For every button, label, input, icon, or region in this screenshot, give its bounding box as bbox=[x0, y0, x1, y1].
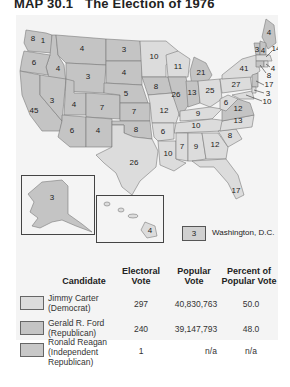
island-maui bbox=[128, 214, 138, 218]
island-kauai bbox=[104, 202, 110, 206]
electoral-vote: 1 bbox=[128, 346, 154, 356]
island-oahu bbox=[118, 208, 124, 212]
electoral-vote: 297 bbox=[128, 299, 154, 309]
percent-vote: 50.0 bbox=[236, 299, 266, 309]
label-hi: 4 bbox=[148, 226, 153, 235]
label-vt: 3 bbox=[255, 45, 260, 54]
label-wa-extra: 1 bbox=[41, 36, 46, 45]
label-al: 9 bbox=[194, 142, 199, 151]
label-ct: 8 bbox=[267, 71, 272, 80]
label-oh: 25 bbox=[206, 86, 215, 95]
label-pa: 27 bbox=[232, 80, 241, 89]
label-nc: 13 bbox=[234, 116, 243, 125]
hawaii-inset: 4 bbox=[96, 195, 164, 243]
map-title: MAP 30.1 The Election of 1976 bbox=[14, 0, 215, 11]
label-id: 4 bbox=[56, 64, 61, 73]
dc-label: Washington, D.C. bbox=[212, 228, 274, 237]
label-ma: 14 bbox=[272, 44, 278, 53]
label-nm: 4 bbox=[96, 126, 101, 135]
label-tn: 10 bbox=[192, 121, 201, 130]
label-ut: 4 bbox=[72, 100, 77, 109]
label-ok: 8 bbox=[134, 125, 139, 134]
alaska-inset: 3 bbox=[21, 175, 95, 235]
header-electoral: Electoral Vote bbox=[118, 266, 164, 286]
label-ia: 8 bbox=[154, 82, 159, 91]
label-md: 10 bbox=[263, 97, 272, 106]
candidate-name: Ronald Reagan (Independent Republican) bbox=[48, 337, 107, 367]
label-il: 26 bbox=[172, 90, 181, 99]
state-connecticut bbox=[256, 61, 264, 67]
label-wa: 8 bbox=[31, 34, 36, 43]
alaska-map: 3 bbox=[22, 176, 94, 234]
carter-swatch bbox=[20, 296, 44, 310]
label-me: 4 bbox=[267, 28, 272, 37]
label-ca: 45 bbox=[30, 106, 39, 115]
label-ar: 6 bbox=[161, 127, 166, 136]
label-ny: 41 bbox=[240, 64, 249, 73]
label-nj: 17 bbox=[265, 80, 274, 89]
label-in: 13 bbox=[188, 88, 197, 97]
label-ms: 7 bbox=[180, 142, 185, 151]
label-mo: 12 bbox=[160, 106, 169, 115]
dc-swatch: 3 bbox=[182, 226, 206, 241]
percent-vote: n/a bbox=[236, 346, 266, 356]
label-nv: 3 bbox=[50, 96, 55, 105]
map-number: MAP 30.1 bbox=[14, 0, 73, 11]
label-mi: 21 bbox=[197, 68, 206, 77]
label-or: 6 bbox=[32, 58, 37, 67]
label-mn: 10 bbox=[150, 52, 159, 61]
label-az: 6 bbox=[70, 126, 75, 135]
label-ak: 3 bbox=[50, 193, 55, 202]
popular-vote: 39,147,793 bbox=[166, 324, 226, 334]
label-sc: 8 bbox=[228, 131, 233, 140]
percent-vote: 48.0 bbox=[236, 324, 266, 334]
label-nh: 4 bbox=[261, 46, 266, 55]
label-la: 10 bbox=[164, 149, 173, 158]
candidate-name: Gerald R. Ford (Republican) bbox=[48, 318, 104, 338]
state-alaska bbox=[28, 180, 92, 232]
label-mt: 4 bbox=[80, 44, 85, 53]
state-washington bbox=[24, 30, 52, 53]
label-ks: 7 bbox=[132, 107, 137, 116]
map-panel: 8 1 6 4 4 3 3 4 5 7 8 3 45 4 7 6 4 26 10… bbox=[16, 15, 278, 340]
label-co: 7 bbox=[100, 103, 105, 112]
label-wi: 11 bbox=[174, 62, 183, 71]
state-new-jersey bbox=[252, 73, 258, 87]
label-tx: 26 bbox=[130, 158, 139, 167]
state-massachusetts bbox=[256, 55, 272, 61]
electoral-vote: 240 bbox=[128, 324, 154, 334]
label-fl: 17 bbox=[232, 186, 241, 195]
state-kentucky bbox=[180, 107, 222, 121]
popular-vote: 40,830,763 bbox=[166, 299, 226, 309]
popular-vote: n/a bbox=[196, 346, 226, 356]
label-ky: 9 bbox=[196, 109, 201, 118]
map-title-text: The Election of 1976 bbox=[85, 0, 215, 11]
label-ga: 12 bbox=[211, 140, 220, 149]
header-candidate: Candidate bbox=[54, 276, 114, 286]
header-popular: Popular Vote bbox=[166, 266, 222, 286]
label-nd: 3 bbox=[122, 45, 127, 54]
candidate-name: Jimmy Carter (Democrat) bbox=[48, 293, 99, 313]
reagan-swatch bbox=[20, 343, 44, 357]
label-va: 12 bbox=[234, 104, 243, 113]
label-ne: 5 bbox=[124, 89, 129, 98]
ford-swatch bbox=[20, 321, 44, 335]
label-ri: 4 bbox=[271, 64, 276, 73]
label-wy: 3 bbox=[86, 72, 91, 81]
label-wv: 6 bbox=[224, 98, 229, 107]
label-sd: 4 bbox=[122, 68, 127, 77]
header-percent: Percent of Popular Vote bbox=[216, 266, 282, 286]
hawaii-map: 4 bbox=[97, 196, 163, 242]
